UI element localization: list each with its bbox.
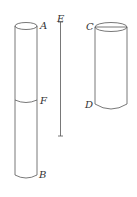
diagram-canvas: A F B E C D [0, 0, 137, 197]
cylinder-ab-bottom-arc [15, 175, 37, 178]
cylinder-cd [95, 23, 127, 110]
cylinder-cd-bottom-arc [95, 104, 127, 109]
label-d: D [84, 99, 93, 110]
label-c: C [86, 21, 94, 32]
label-a: A [39, 20, 47, 31]
cylinder-ab-division-f [15, 100, 37, 103]
line-e [58, 22, 63, 136]
cylinder-ab-top-ellipse [15, 23, 37, 30]
cylinder-ab [15, 23, 37, 179]
label-e: E [56, 13, 65, 24]
label-b: B [38, 169, 46, 180]
label-f: F [39, 95, 48, 106]
